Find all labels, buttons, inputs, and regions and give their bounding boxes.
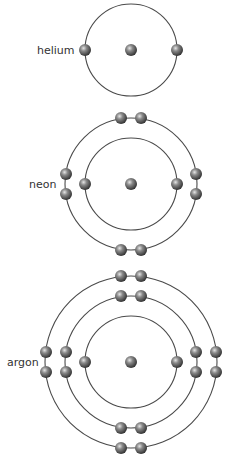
electron <box>210 366 222 378</box>
atom-label-helium: helium <box>37 44 75 57</box>
electron <box>190 366 202 378</box>
electron <box>60 168 72 180</box>
electron <box>79 356 91 368</box>
nucleus <box>125 178 137 190</box>
electron <box>115 422 127 434</box>
electron <box>135 422 147 434</box>
electron <box>79 178 91 190</box>
electron <box>135 112 147 124</box>
electron <box>190 346 202 358</box>
electron <box>135 442 147 454</box>
electron <box>171 356 183 368</box>
electron <box>210 346 222 358</box>
electron <box>60 188 72 200</box>
noble-gas-shell-diagram: helium neon argon <box>0 0 234 465</box>
electron <box>40 366 52 378</box>
electron <box>115 442 127 454</box>
atom-neon: neon <box>29 112 202 256</box>
atom-label-argon: argon <box>7 356 39 369</box>
electron <box>60 346 72 358</box>
electron <box>115 112 127 124</box>
atom-helium: helium <box>37 4 183 96</box>
nucleus <box>125 44 137 56</box>
electron <box>190 188 202 200</box>
atom-label-neon: neon <box>29 178 56 191</box>
electron <box>60 366 72 378</box>
electron <box>115 270 127 282</box>
electron <box>40 346 52 358</box>
electron <box>79 44 91 56</box>
electron <box>115 290 127 302</box>
electron <box>190 168 202 180</box>
electron <box>171 44 183 56</box>
electron <box>171 178 183 190</box>
electron <box>135 270 147 282</box>
electron <box>135 244 147 256</box>
electron <box>135 290 147 302</box>
atom-argon: argon <box>7 270 222 454</box>
nucleus <box>125 356 137 368</box>
electron <box>115 244 127 256</box>
